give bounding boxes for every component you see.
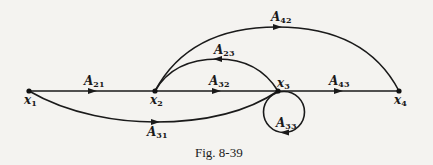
label-x4: x4 xyxy=(393,93,407,108)
label-a32: A32 xyxy=(208,74,229,89)
label-x3: x3 xyxy=(276,76,290,91)
label-a42: A42 xyxy=(270,10,291,25)
label-x1: x1 xyxy=(23,93,37,108)
label-a31: A31 xyxy=(146,125,167,140)
signal-flow-graph: x1 x2 x3 x4 A21 A32 A43 A23 A42 A31 A33 … xyxy=(0,0,433,165)
label-x2: x2 xyxy=(149,93,163,108)
label-a33: A33 xyxy=(275,116,297,131)
label-a23: A23 xyxy=(213,43,235,58)
label-a43: A43 xyxy=(328,74,350,89)
label-a21: A21 xyxy=(83,74,104,89)
figure-caption: Fig. 8-39 xyxy=(195,145,243,160)
